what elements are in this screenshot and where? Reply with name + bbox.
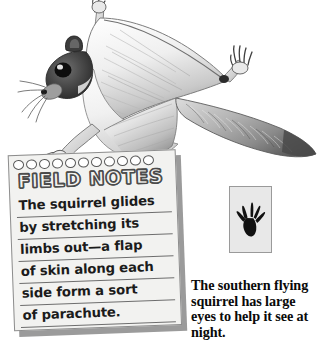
page-root: FIELD NOTES The squirrel glides by stret… bbox=[0, 0, 317, 350]
spiral-hole bbox=[130, 155, 141, 165]
field-notes-title: FIELD NOTES bbox=[17, 167, 163, 191]
spiral-hole bbox=[39, 159, 50, 169]
squirrel-shoulder-mark bbox=[219, 75, 229, 83]
squirrel-whiskers bbox=[18, 81, 47, 122]
squirrel-head bbox=[18, 36, 93, 122]
field-notes-lines: The squirrel glides by stretching its li… bbox=[10, 190, 182, 331]
notepad-paper: FIELD NOTES The squirrel glides by stret… bbox=[8, 149, 182, 331]
squirrel-eye bbox=[55, 63, 72, 78]
spiral-hole bbox=[104, 156, 115, 166]
field-notes-pad: FIELD NOTES The squirrel glides by stret… bbox=[8, 149, 191, 339]
paw-print-icon bbox=[236, 202, 266, 238]
track-print-box bbox=[229, 186, 272, 253]
photo-caption: The southern flying squirrel has large e… bbox=[191, 278, 315, 340]
spiral-hole bbox=[143, 155, 154, 165]
spiral-hole bbox=[91, 157, 102, 167]
spiral-hole bbox=[65, 158, 76, 168]
spiral-hole bbox=[117, 156, 128, 166]
spiral-hole bbox=[26, 159, 37, 169]
spiral-hole bbox=[13, 160, 24, 170]
squirrel-tail bbox=[176, 98, 316, 157]
spiral-hole bbox=[52, 158, 63, 168]
spiral-hole bbox=[78, 157, 89, 167]
